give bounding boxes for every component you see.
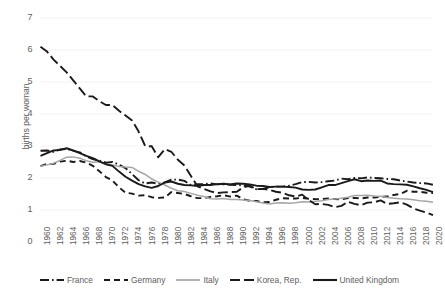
- x-tick-label: 2016: [410, 227, 418, 245]
- legend-label: France: [67, 276, 93, 284]
- x-tick-label: 1992: [253, 227, 261, 245]
- legend-swatch-korea-rep: [230, 276, 254, 284]
- legend-label: United Kingdom: [340, 276, 400, 284]
- x-tick-label: 1966: [83, 227, 91, 245]
- series-lines: [41, 47, 434, 215]
- x-tick-label: 2000: [306, 227, 314, 245]
- legend-swatch-germany: [104, 276, 128, 284]
- x-tick-label: 2006: [345, 227, 353, 245]
- x-tick-label: 2014: [397, 227, 405, 245]
- gridlines: [41, 18, 434, 242]
- chart-legend: FranceGermanyItalyKorea, Rep.United King…: [0, 276, 439, 284]
- x-tick-label: 2018: [423, 227, 431, 245]
- legend-swatch-united-kingdom: [313, 276, 337, 284]
- x-tick-label: 1976: [149, 227, 157, 245]
- x-tick-label: 2008: [358, 227, 366, 245]
- x-tick-label: 1986: [214, 227, 222, 245]
- x-tick-label: 1982: [188, 227, 196, 245]
- legend-item[interactable]: United Kingdom: [313, 276, 400, 284]
- legend-item[interactable]: Korea, Rep.: [230, 276, 302, 284]
- legend-item[interactable]: Germany: [104, 276, 165, 284]
- x-tick-label: 2002: [319, 227, 327, 245]
- x-tick-label: 2020: [436, 227, 444, 245]
- y-tick-label: 1: [17, 205, 33, 214]
- legend-swatch-italy: [176, 276, 200, 284]
- x-tick-label: 1968: [96, 227, 104, 245]
- x-tick-label: 2012: [384, 227, 392, 245]
- x-tick-label: 1974: [135, 227, 143, 245]
- legend-label: Italy: [203, 276, 218, 284]
- x-tick-label: 1990: [240, 227, 248, 245]
- x-tick-label: 1994: [266, 227, 274, 245]
- x-tick-label: 1960: [44, 227, 52, 245]
- y-tick-label: 5: [17, 77, 33, 86]
- legend-item[interactable]: Italy: [176, 276, 218, 284]
- x-tick-label: 1996: [279, 227, 287, 245]
- y-tick-label: 4: [17, 109, 33, 118]
- x-tick-label: 2004: [332, 227, 340, 245]
- x-tick-label: 1978: [162, 227, 170, 245]
- y-tick-label: 6: [17, 45, 33, 54]
- legend-label: Korea, Rep.: [257, 276, 302, 284]
- x-tick-label: 1988: [227, 227, 235, 245]
- legend-item[interactable]: France: [40, 276, 93, 284]
- x-tick-label: 1962: [57, 227, 65, 245]
- x-tick-label: 1984: [201, 227, 209, 245]
- y-tick-label: 3: [17, 141, 33, 150]
- x-tick-label: 1970: [109, 227, 117, 245]
- y-tick-label: 7: [17, 13, 33, 22]
- x-tick-label: 1998: [292, 227, 300, 245]
- x-tick-label: 1972: [122, 227, 130, 245]
- x-tick-label: 1980: [175, 227, 183, 245]
- legend-swatch-france: [40, 276, 64, 284]
- x-tick-label: 2010: [371, 227, 379, 245]
- legend-label: Germany: [131, 276, 165, 284]
- series-line-korea-rep: [41, 47, 434, 215]
- y-tick-label: 2: [17, 173, 33, 182]
- y-tick-label: 0: [17, 237, 33, 246]
- x-tick-label: 1964: [70, 227, 78, 245]
